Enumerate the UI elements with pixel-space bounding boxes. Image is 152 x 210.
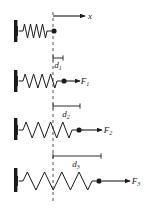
displacement-label-subscript: 3 (76, 164, 80, 170)
force-label-subscript: 2 (109, 130, 112, 136)
displacement-label-subscript: 2 (67, 114, 70, 120)
displacement-label-subscript: 1 (59, 65, 62, 71)
wall-block (14, 20, 17, 42)
spring-force-figure: x d1F1d2F2d3F3 (0, 0, 152, 210)
mass-dot (61, 78, 66, 83)
mass-dot (96, 178, 101, 183)
mass-dot (51, 28, 56, 33)
wall-block (14, 168, 17, 192)
force-label-subscript: 1 (86, 81, 89, 87)
mass-dot (76, 127, 81, 132)
wall-block (14, 118, 17, 140)
force-label-subscript: 3 (136, 181, 140, 187)
wall-block (14, 70, 17, 92)
x-axis-label: x (87, 11, 92, 21)
figure-canvas: x d1F1d2F2d3F3 (0, 0, 152, 210)
